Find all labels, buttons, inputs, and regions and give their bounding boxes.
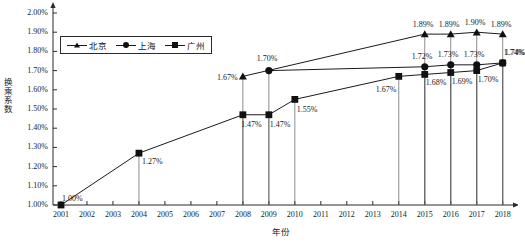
data-label: 1.70%: [478, 76, 499, 84]
data-label: 1.67%: [217, 74, 238, 82]
data-label: 1.27%: [142, 158, 163, 166]
data-label: 1.68%: [426, 79, 447, 87]
y-tick-label: 1.60%: [8, 86, 48, 94]
data-label: 1.73%: [464, 51, 485, 59]
legend-triangle-glyph: [74, 43, 80, 48]
legend-marker-triangle-icon: [67, 45, 87, 46]
y-tick-label: 2.00%: [8, 9, 48, 17]
data-label: 1.89%: [491, 21, 512, 29]
legend-item-label: 广州: [187, 39, 205, 51]
y-tick-label: 1.70%: [8, 67, 48, 75]
legend-item-beijing[interactable]: 北京: [67, 39, 107, 51]
y-tick-label: 1.00%: [8, 201, 48, 209]
data-label: 1.67%: [376, 86, 397, 94]
legend-square-glyph: [172, 42, 178, 48]
y-tick-label: 1.90%: [8, 28, 48, 36]
data-label: 1.70%: [257, 55, 278, 63]
y-tick-label: 1.80%: [8, 47, 48, 55]
y-tick-label: 1.10%: [8, 182, 48, 190]
legend-circle-glyph: [123, 42, 129, 48]
y-tick-label: 1.40%: [8, 124, 48, 132]
y-tick-label: 1.50%: [8, 105, 48, 113]
data-label: 1.89%: [413, 21, 434, 29]
data-label: 1.74%: [505, 49, 525, 57]
data-label: 1.73%: [438, 51, 459, 59]
legend-item-shanghai[interactable]: 上海: [116, 39, 156, 51]
legend-marker-circle-icon: [116, 45, 136, 46]
x-tick-label: 2018: [488, 211, 518, 219]
legend-marker-square-icon: [165, 45, 185, 46]
data-label: 1.90%: [465, 19, 486, 27]
data-label: 1.47%: [241, 121, 262, 129]
data-label: 1.47%: [270, 121, 291, 129]
data-label: 1.55%: [297, 106, 318, 114]
legend-item-label: 上海: [138, 39, 156, 51]
chart-legend: 北京上海广州: [60, 36, 212, 54]
data-label: 1.69%: [452, 78, 473, 86]
y-tick-label: 1.30%: [8, 143, 48, 151]
y-tick-label: 1.20%: [8, 163, 48, 171]
legend-item-label: 北京: [89, 39, 107, 51]
data-label: 1.89%: [439, 21, 460, 29]
x-axis-title: 年份: [251, 225, 311, 237]
legend-item-guangzhou[interactable]: 广州: [165, 39, 205, 51]
data-label: 1.00%: [62, 195, 83, 203]
data-label: 1.72%: [412, 53, 433, 61]
